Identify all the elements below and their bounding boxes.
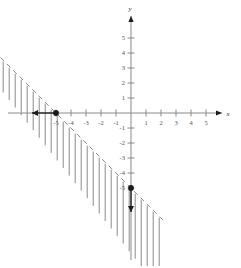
x-tick-label: 2 [159,119,162,126]
y-tick-label: -4 [120,169,126,176]
y-tick-label: 1 [122,94,125,101]
y-tick-label: -3 [120,154,125,161]
x-tick-label: -1 [113,119,118,126]
y-tick-label: 4 [122,49,126,56]
shaded-region-hatching [3,62,159,266]
endpoint-dot [53,110,59,116]
dashed-boundary-line [1,58,165,222]
y-axis-arrowhead [128,16,133,22]
x-axis-label: x [225,110,230,118]
coordinate-plane-svg: -5-4-3-2-11234554321-1-2-3-4-5 x y [0,0,241,268]
x-tick-label: 3 [174,119,177,126]
x-tick-label: 4 [189,119,193,126]
y-tick-label: 5 [122,34,125,41]
y-tick-label: -5 [120,184,125,191]
y-axis-label: y [127,5,132,13]
x-axis-arrowhead [216,110,222,115]
x-tick-label: -2 [98,119,103,126]
x-tick-label: 1 [144,119,147,126]
y-tick-label: -2 [120,139,125,146]
graph-figure: -5-4-3-2-11234554321-1-2-3-4-5 x y [0,0,241,268]
x-tick-label: 5 [204,119,207,126]
endpoint-dot [128,185,134,191]
x-tick-label: -5 [53,119,58,126]
x-tick-label: -4 [68,119,74,126]
axes-group [8,16,222,260]
y-tick-label: 2 [122,79,125,86]
y-tick-label: -1 [120,124,125,131]
x-tick-label: -3 [83,119,88,126]
y-tick-label: 3 [122,64,125,71]
